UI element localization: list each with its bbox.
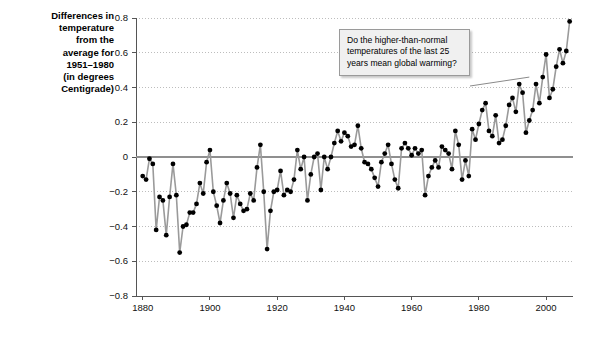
data-point: [527, 118, 532, 123]
y-tick-label: 0.6: [98, 48, 128, 58]
data-point: [413, 146, 418, 151]
data-point: [308, 172, 313, 177]
data-point: [214, 203, 219, 208]
data-point: [355, 123, 360, 128]
data-point: [342, 130, 347, 135]
data-point: [372, 175, 377, 180]
data-point: [564, 49, 569, 54]
data-point: [406, 146, 411, 151]
data-point: [150, 162, 155, 167]
data-point: [157, 195, 162, 200]
x-tick-label: 1880: [123, 303, 163, 313]
data-point: [483, 101, 488, 106]
data-point: [322, 155, 327, 160]
data-point: [376, 184, 381, 189]
data-point: [497, 141, 502, 146]
data-point: [426, 174, 431, 179]
data-point: [160, 198, 165, 203]
data-point: [345, 134, 350, 139]
data-point: [221, 198, 226, 203]
data-point: [547, 96, 552, 101]
data-point: [550, 87, 555, 92]
data-point: [171, 162, 176, 167]
data-point: [513, 109, 518, 114]
y-tick-label: 0.8: [98, 13, 128, 23]
data-point: [204, 160, 209, 165]
data-point: [493, 113, 498, 118]
data-point: [140, 174, 145, 179]
x-tick-label: 1960: [392, 303, 432, 313]
data-point: [292, 177, 297, 182]
data-point: [248, 191, 253, 196]
data-point: [463, 158, 468, 163]
plot-area: [0, 0, 592, 338]
data-point: [298, 167, 303, 172]
data-point: [167, 195, 172, 200]
data-point: [335, 129, 340, 134]
data-point: [234, 193, 239, 198]
data-point: [261, 189, 266, 194]
data-point: [194, 202, 199, 207]
data-point: [460, 177, 465, 182]
data-point: [164, 233, 169, 238]
data-point: [524, 130, 529, 135]
data-point: [231, 215, 236, 220]
data-point: [534, 82, 539, 87]
data-point: [567, 19, 572, 24]
data-point: [278, 169, 283, 174]
data-point: [466, 174, 471, 179]
x-tick-label: 1980: [459, 303, 499, 313]
data-point: [245, 207, 250, 212]
data-point: [403, 141, 408, 146]
data-point: [476, 122, 481, 127]
data-point: [487, 129, 492, 134]
data-point: [224, 181, 229, 186]
data-point: [154, 228, 159, 233]
data-point: [503, 123, 508, 128]
data-point: [429, 165, 434, 170]
x-tick-label: 2000: [526, 303, 566, 313]
data-point: [537, 101, 542, 106]
data-point: [312, 155, 317, 160]
data-point: [386, 142, 391, 147]
data-point: [490, 134, 495, 139]
data-point: [288, 189, 293, 194]
x-tick-label: 1900: [190, 303, 230, 313]
data-point: [305, 198, 310, 203]
data-point: [268, 208, 273, 213]
data-point: [211, 189, 216, 194]
data-point: [302, 155, 307, 160]
data-point: [329, 155, 334, 160]
y-tick-label: −0.8: [98, 291, 128, 301]
data-point: [177, 250, 182, 255]
data-point: [409, 153, 414, 158]
data-point: [520, 90, 525, 95]
y-tick-label: −0.6: [98, 256, 128, 266]
data-point: [282, 193, 287, 198]
data-point: [144, 177, 149, 182]
data-point: [517, 82, 522, 87]
data-point: [201, 191, 206, 196]
temperature-anomaly-chart: Differences in temperature from the aver…: [0, 0, 592, 338]
data-point: [325, 167, 330, 172]
data-point: [275, 188, 280, 193]
annotation-callout: Do the higher-than-normal temperatures o…: [339, 29, 470, 76]
data-point: [389, 162, 394, 167]
data-point: [392, 177, 397, 182]
data-point: [500, 137, 505, 142]
x-tick-label: 1940: [324, 303, 364, 313]
data-point: [423, 193, 428, 198]
data-point: [265, 247, 270, 252]
data-point: [339, 139, 344, 144]
data-point: [416, 151, 421, 156]
data-point: [255, 165, 260, 170]
y-tick-label: −0.2: [98, 187, 128, 197]
data-point: [473, 137, 478, 142]
data-point: [218, 221, 223, 226]
data-point: [208, 148, 213, 153]
data-point: [359, 146, 364, 151]
data-point: [147, 156, 152, 161]
data-point: [197, 181, 202, 186]
data-point: [433, 158, 438, 163]
data-point: [396, 186, 401, 191]
